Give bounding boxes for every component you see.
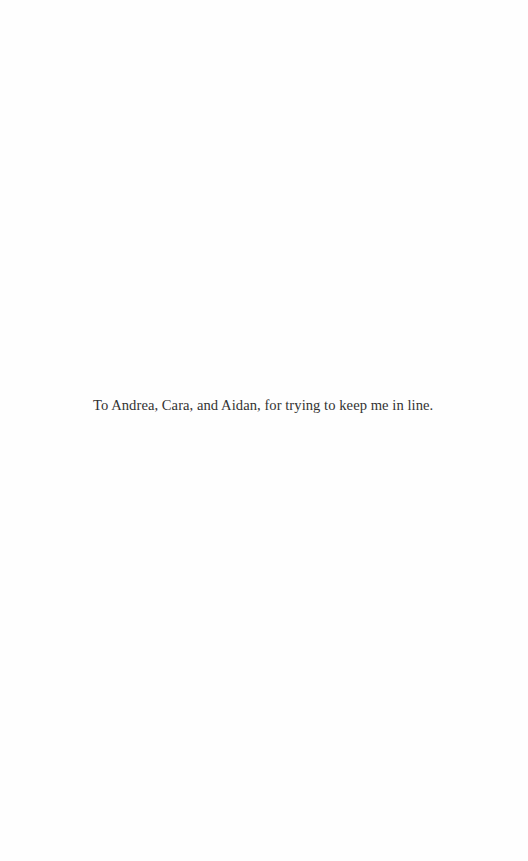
book-page: To Andrea, Cara, and Aidan, for trying t… [0,0,528,861]
dedication-text: To Andrea, Cara, and Aidan, for trying t… [93,395,423,415]
